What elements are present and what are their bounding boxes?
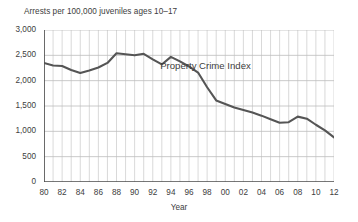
x-axis-tick-label: 92 xyxy=(144,188,162,197)
chart-title: Arrests per 100,000 juveniles ages 10–17 xyxy=(24,7,177,16)
x-axis-tick-label: 86 xyxy=(89,188,107,197)
plot-area xyxy=(44,30,334,182)
y-axis-tick-label: 1,000 xyxy=(2,126,36,135)
y-axis-tick-label: 500 xyxy=(2,152,36,161)
x-axis-tick-label: 10 xyxy=(307,188,325,197)
y-axis-tick-label: 2,000 xyxy=(2,76,36,85)
property-crime-index-chart: Arrests per 100,000 juveniles ages 10–17… xyxy=(0,0,358,222)
x-axis-tick-label: 96 xyxy=(180,188,198,197)
series-annotation-property-crime-index: Property Crime Index xyxy=(160,60,251,71)
plot-svg xyxy=(44,30,334,182)
x-axis-tick-label: 82 xyxy=(53,188,71,197)
x-axis-tick-label: 90 xyxy=(126,188,144,197)
x-axis-tick-label: 80 xyxy=(35,188,53,197)
y-axis-tick-label: 2,500 xyxy=(2,50,36,59)
x-axis-tick-label: 94 xyxy=(162,188,180,197)
x-axis-tick-label: 88 xyxy=(108,188,126,197)
y-axis-tick-label: 0 xyxy=(2,177,36,186)
x-axis-tick-label: 04 xyxy=(253,188,271,197)
x-axis-tick-label: 02 xyxy=(234,188,252,197)
x-axis-tick-label: 84 xyxy=(71,188,89,197)
x-axis-tick-label: 06 xyxy=(271,188,289,197)
y-axis-tick-label: 3,000 xyxy=(2,25,36,34)
x-axis-title: Year xyxy=(0,203,358,212)
x-axis-tick-label: 12 xyxy=(325,188,343,197)
x-axis-tick-label: 00 xyxy=(216,188,234,197)
x-axis-tick-label: 98 xyxy=(198,188,216,197)
y-axis-tick-label: 1,500 xyxy=(2,101,36,110)
x-axis-tick-label: 08 xyxy=(289,188,307,197)
